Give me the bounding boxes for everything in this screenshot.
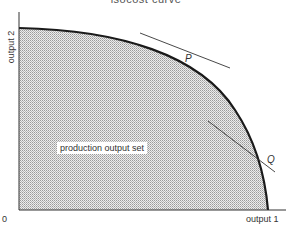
origin-label: 0	[2, 214, 7, 224]
point-p-label: P	[185, 53, 192, 64]
production-possibility-diagram	[0, 0, 292, 234]
region-label: production output set	[57, 142, 147, 154]
y-axis-label: output 2	[6, 31, 16, 64]
point-q-label: Q	[267, 154, 275, 165]
production-set-region	[19, 28, 268, 210]
x-axis-label: output 1	[246, 214, 279, 224]
